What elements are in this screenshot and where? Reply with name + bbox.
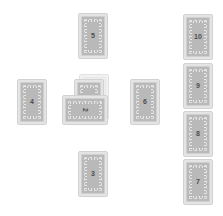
tarot-spread-canvas: 34567891012 [0, 0, 223, 216]
card-position-number: 4 [21, 98, 43, 106]
card-back-pattern: 8 [186, 114, 210, 154]
tarot-card-6[interactable]: 6 [130, 79, 160, 125]
card-position-number: 5 [82, 32, 104, 40]
tarot-card-4[interactable]: 4 [17, 79, 47, 125]
card-back-pattern: 9 [186, 66, 210, 106]
card-position-number: 2 [81, 99, 89, 121]
card-position-number: 7 [187, 178, 209, 186]
tarot-card-7[interactable]: 7 [183, 159, 213, 205]
tarot-card-8[interactable]: 8 [183, 111, 213, 157]
tarot-card-10[interactable]: 10 [183, 14, 213, 60]
tarot-card-3[interactable]: 3 [78, 151, 108, 197]
card-position-number: 8 [187, 130, 209, 138]
card-back-pattern: 2 [65, 98, 105, 122]
card-position-number: 6 [134, 98, 156, 106]
tarot-card-5[interactable]: 5 [78, 13, 108, 59]
card-back-pattern: 4 [20, 82, 44, 122]
tarot-card-2[interactable]: 2 [62, 95, 108, 125]
card-back-pattern: 5 [81, 16, 105, 56]
card-back-pattern: 3 [81, 154, 105, 194]
card-back-pattern: 10 [186, 17, 210, 57]
tarot-card-9[interactable]: 9 [183, 63, 213, 109]
card-position-number: 9 [187, 82, 209, 90]
card-back-pattern: 7 [186, 162, 210, 202]
card-position-number: 3 [82, 170, 104, 178]
card-back-pattern: 6 [133, 82, 157, 122]
card-position-number: 10 [187, 33, 209, 41]
